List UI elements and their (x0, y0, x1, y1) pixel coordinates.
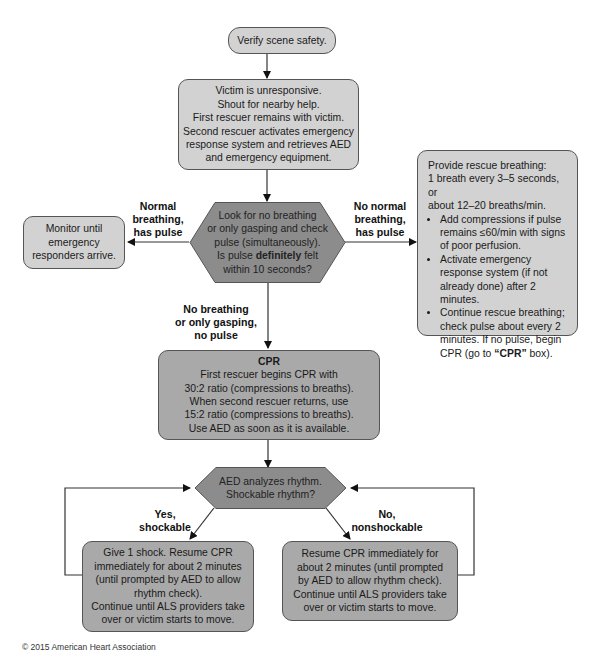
shock-line: immediately for about 2 minutes (94, 560, 241, 573)
victim-line: response system and retrieves AED (186, 138, 351, 151)
aed-line: Shockable rhythm? (226, 488, 315, 501)
verify-scene-box: Verify scene safety. (228, 27, 336, 54)
rescue-breathing-box: Provide rescue breathing: 1 breath every… (417, 150, 578, 336)
rescue-bullet: Activate emergency response system (if n… (440, 253, 569, 307)
shock-line: Give 1 shock. Resume CPR (103, 546, 232, 559)
check-line: or only gasping and check (207, 222, 328, 235)
nonshockable-box: Resume CPR immediately for about 2 minut… (282, 541, 458, 621)
shock-line: over or victim starts to move. (102, 613, 235, 626)
label-normal-breathing: Normal breathing, has pulse (130, 200, 186, 239)
shock-line: (until prompted by AED to allow (96, 573, 241, 586)
verify-scene-text: Verify scene safety. (237, 34, 326, 47)
label-no-nonshockable: No, nonshockable (347, 508, 427, 534)
victim-unresponsive-box: Victim is unresponsive. Shout for nearby… (178, 79, 359, 170)
check-pulse-decision: Look for no breathing or only gasping an… (189, 202, 346, 283)
rescue-intro: 1 breath every 3–5 seconds, or (428, 172, 569, 199)
noshock-line: about 2 minutes (until prompted (297, 561, 443, 574)
cpr-line: First rescuer begins CPR with (200, 368, 337, 381)
cpr-line: 30:2 ratio (compressions to breaths). (184, 382, 353, 395)
victim-line: First rescuer remains with victim. (193, 111, 344, 124)
noshock-line: over or victim starts to move. (304, 601, 437, 614)
label-no-breathing: No breathing or only gasping, no pulse (170, 303, 262, 342)
monitor-line: emergency (48, 236, 99, 249)
victim-line: Shout for nearby help. (217, 98, 319, 111)
aed-line: AED analyzes rhythm. (219, 475, 322, 488)
cpr-line: 15:2 ratio (compressions to breaths). (184, 408, 353, 421)
shock-line: Continue until ALS providers take (91, 600, 245, 613)
cpr-line: Use AED as soon as it is available. (189, 422, 350, 435)
aed-analyzes-decision: AED analyzes rhythm. Shockable rhythm? (194, 467, 347, 509)
check-line: Is pulse definitely felt (217, 249, 318, 262)
monitor-line: Monitor until (46, 222, 103, 235)
monitor-line: responders arrive. (32, 249, 116, 262)
check-line: within 10 seconds? (223, 263, 311, 276)
victim-line: Victim is unresponsive. (215, 84, 321, 97)
check-line: pulse (simultaneously). (214, 236, 320, 249)
victim-line: and emergency equipment. (206, 151, 332, 164)
monitor-box: Monitor until emergency responders arriv… (23, 216, 125, 269)
noshock-line: Continue until ALS providers take (293, 588, 447, 601)
noshock-line: by AED to allow rhythm check). (298, 574, 442, 587)
rescue-intro: about 12–20 breaths/min. (428, 199, 546, 212)
cpr-line: When second rescuer returns, use (190, 395, 349, 408)
label-no-normal-breathing: No normal breathing, has pulse (347, 200, 413, 239)
rescue-intro: Provide rescue breathing: (428, 159, 546, 172)
label-yes-shockable: Yes, shockable (135, 508, 195, 534)
check-line: Look for no breathing (218, 209, 316, 222)
rescue-bullet-list: Add compressions if pulse remains ≤60/mi… (428, 213, 569, 360)
cpr-title: CPR (258, 355, 280, 368)
shock-line: rhythm check). (134, 587, 202, 600)
shock-box: Give 1 shock. Resume CPR immediately for… (82, 541, 254, 632)
cpr-box: CPR First rescuer begins CPR with 30:2 r… (158, 350, 380, 440)
rescue-bullet: Continue rescue breathing; check pulse a… (440, 306, 569, 360)
copyright-text: © 2015 American Heart Association (22, 642, 156, 652)
rescue-bullet: Add compressions if pulse remains ≤60/mi… (440, 213, 569, 253)
victim-line: Second rescuer activates emergency (183, 125, 354, 138)
noshock-line: Resume CPR immediately for (302, 547, 439, 560)
